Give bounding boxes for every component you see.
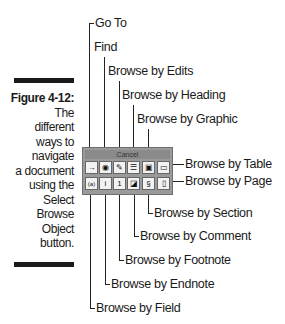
callout-find: Find (94, 40, 117, 54)
caption-line: Object (4, 222, 74, 237)
caption-line: The (4, 106, 74, 121)
caption-line: Select (4, 193, 74, 208)
binoculars-icon: ◉ (102, 163, 109, 172)
browse-by-endnote-button[interactable]: i (99, 177, 112, 190)
leader-edits (119, 81, 120, 157)
callout-browse-by-edits: Browse by Edits (108, 64, 193, 78)
caption-line: different (4, 120, 74, 135)
leader-comment (134, 188, 135, 236)
caption-top-rule (14, 78, 74, 83)
pencil-icon: ✎ (116, 163, 123, 172)
callout-browse-by-section: Browse by Section (154, 206, 252, 220)
leader-footnote (119, 188, 120, 260)
table-icon: ▭ (160, 163, 168, 172)
section-icon: § (146, 179, 150, 188)
comment-icon: ◪ (130, 179, 138, 188)
cancel-button[interactable]: Cancel (85, 150, 170, 159)
caption-line: ways to (4, 135, 74, 150)
endnote-icon: i (105, 179, 107, 188)
figure-number: Figure 4-12: (4, 91, 74, 106)
callout-browse-by-field: Browse by Field (96, 301, 180, 315)
go-to-button[interactable]: → (85, 161, 98, 174)
callout-browse-by-endnote: Browse by Endnote (111, 277, 214, 291)
leader-comment-tick (134, 236, 139, 237)
caption-line: navigate (4, 149, 74, 164)
leader-field-tick (90, 308, 95, 309)
callout-browse-by-heading: Browse by Heading (122, 88, 225, 102)
heading-list-icon: ☰ (130, 163, 137, 172)
picture-icon: ▣ (145, 163, 153, 172)
caption-bottom-rule (14, 262, 74, 267)
caption-line: using the (4, 178, 74, 193)
leader-go-to (89, 23, 90, 157)
browse-by-comment-button[interactable]: ◪ (127, 177, 140, 190)
callout-go-to: Go To (95, 16, 127, 30)
browse-by-section-button[interactable]: § (142, 177, 155, 190)
field-icon: (a) (88, 181, 95, 187)
select-browse-object-palette: Cancel → ◉ ✎ ☰ ▣ ▭ (a) i 1 ◪ § ▯ (82, 147, 173, 195)
figure-caption: Figure 4-12: The different ways to navig… (4, 91, 74, 251)
caption-line: button. (4, 236, 74, 251)
caption-line: a document (4, 164, 74, 179)
leader-field (90, 188, 91, 308)
leader-footnote-tick (119, 260, 124, 261)
find-button[interactable]: ◉ (99, 161, 112, 174)
leader-section-tick (148, 213, 153, 214)
callout-browse-by-page: Browse by Page (185, 174, 272, 188)
leader-endnote-tick (105, 284, 110, 285)
browse-by-table-button[interactable]: ▭ (157, 161, 170, 174)
browse-by-footnote-button[interactable]: 1 (113, 177, 126, 190)
callout-browse-by-footnote: Browse by Footnote (125, 253, 231, 267)
leader-find (104, 57, 105, 157)
leader-go-to-tick (89, 23, 94, 24)
leader-endnote (105, 188, 106, 284)
footnote-icon: 1 (117, 179, 121, 188)
browse-by-graphic-button[interactable]: ▣ (142, 161, 155, 174)
arrow-right-icon: → (88, 163, 96, 172)
browse-by-page-button[interactable]: ▯ (157, 177, 170, 190)
browse-by-edits-button[interactable]: ✎ (113, 161, 126, 174)
browse-by-field-button[interactable]: (a) (85, 177, 98, 190)
callout-browse-by-comment: Browse by Comment (140, 229, 251, 243)
page-icon: ▯ (162, 179, 166, 188)
callout-browse-by-graphic: Browse by Graphic (137, 112, 238, 126)
browse-by-heading-button[interactable]: ☰ (127, 161, 140, 174)
callout-browse-by-table: Browse by Table (185, 157, 272, 171)
caption-line: Browse (4, 207, 74, 222)
